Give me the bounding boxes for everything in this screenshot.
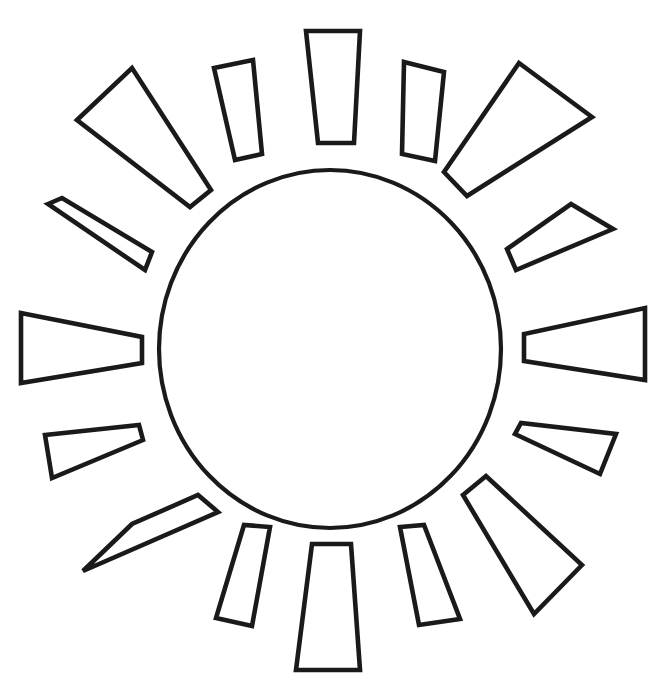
ray-12-oclock bbox=[306, 31, 360, 143]
coloring-page-canvas bbox=[0, 0, 671, 689]
ray-1-oclock-small bbox=[402, 62, 444, 161]
sun-line-art bbox=[0, 0, 671, 689]
sun-disc bbox=[159, 170, 501, 528]
